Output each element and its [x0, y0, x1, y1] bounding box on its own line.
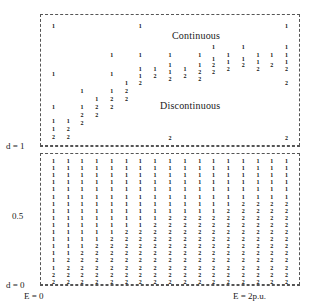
data-marker: 1: [211, 186, 216, 192]
data-marker: 1: [197, 194, 202, 200]
data-marker: 1: [211, 172, 216, 178]
data-marker: 2: [153, 243, 158, 249]
data-marker: 2: [256, 265, 261, 271]
data-marker: 1: [138, 194, 143, 200]
data-marker: 2: [124, 279, 129, 285]
d0-gridline: [40, 285, 300, 286]
data-marker: 1: [94, 96, 99, 102]
data-marker: 2: [211, 279, 216, 285]
data-marker: 1: [51, 194, 56, 200]
data-marker: 2: [168, 229, 173, 235]
data-marker: 2: [241, 236, 246, 242]
data-marker: 1: [168, 179, 173, 185]
data-marker: 1: [66, 250, 71, 256]
data-marker: 1: [211, 194, 216, 200]
data-marker: 2: [124, 236, 129, 242]
data-marker: 2: [124, 243, 129, 249]
data-marker: 1: [124, 222, 129, 228]
data-marker: 1: [284, 23, 289, 29]
data-marker: 2: [284, 215, 289, 221]
data-marker: 1: [168, 201, 173, 207]
x-axis-label-left: E = 0: [24, 291, 44, 301]
data-marker: 2: [153, 265, 158, 271]
data-marker: 1: [109, 222, 114, 228]
data-marker: 1: [51, 165, 56, 171]
data-marker: 1: [79, 104, 84, 110]
data-marker: 1: [197, 172, 202, 178]
data-marker: 2: [79, 272, 84, 278]
data-marker: 2: [284, 272, 289, 278]
data-marker: 1: [79, 194, 84, 200]
data-marker: 1: [269, 52, 274, 58]
data-marker: 2: [66, 279, 71, 285]
data-marker: 1: [226, 186, 231, 192]
data-marker: 2: [226, 279, 231, 285]
data-marker: 1: [256, 172, 261, 178]
data-marker: 1: [256, 179, 261, 185]
data-marker: 1: [284, 165, 289, 171]
data-marker: 2: [241, 201, 246, 207]
data-marker: 1: [138, 172, 143, 178]
data-marker: 2: [153, 73, 158, 79]
region-label-continuous: Continuous: [172, 30, 220, 41]
data-marker: 2: [256, 201, 261, 207]
data-marker: 1: [182, 165, 187, 171]
data-marker: 2: [109, 272, 114, 278]
data-marker: 1: [226, 158, 231, 164]
data-marker: 2: [269, 229, 274, 235]
data-marker: 2: [284, 279, 289, 285]
data-marker: 1: [51, 222, 56, 228]
data-marker: 2: [109, 243, 114, 249]
data-marker: 1: [182, 186, 187, 192]
data-marker: 1: [94, 179, 99, 185]
data-marker: 1: [109, 186, 114, 192]
data-marker: 2: [94, 104, 99, 110]
data-marker: 2: [182, 257, 187, 263]
data-marker: 2: [284, 201, 289, 207]
data-marker: 2: [66, 272, 71, 278]
data-marker: 1: [284, 179, 289, 185]
data-marker: 1: [284, 52, 289, 58]
data-marker: 2: [226, 243, 231, 249]
data-marker: 1: [153, 201, 158, 207]
data-marker: 2: [79, 265, 84, 271]
data-marker: 1: [109, 194, 114, 200]
d1-gridline: [40, 146, 300, 147]
data-marker: 2: [226, 257, 231, 263]
data-marker: 2: [182, 265, 187, 271]
data-marker: 1: [226, 194, 231, 200]
data-marker: 1: [197, 165, 202, 171]
data-marker: 2: [197, 265, 202, 271]
data-marker: 1: [124, 158, 129, 164]
data-marker: 1: [51, 71, 56, 77]
data-marker: 1: [256, 52, 261, 58]
data-marker: 1: [153, 186, 158, 192]
data-marker: 2: [124, 96, 129, 102]
data-marker: 1: [51, 257, 56, 263]
data-marker: 1: [138, 73, 143, 79]
data-marker: 1: [124, 215, 129, 221]
data-marker: 2: [94, 265, 99, 271]
data-marker: 1: [241, 186, 246, 192]
data-marker: 2: [241, 208, 246, 214]
data-marker: 2: [226, 66, 231, 72]
data-marker: 2: [241, 265, 246, 271]
data-marker: 1: [226, 59, 231, 65]
data-marker: 1: [168, 186, 173, 192]
data-marker: 1: [94, 201, 99, 207]
data-marker: 1: [79, 158, 84, 164]
data-marker: 1: [109, 229, 114, 235]
data-marker: 1: [269, 172, 274, 178]
data-marker: 1: [94, 229, 99, 235]
data-marker: 1: [79, 208, 84, 214]
data-marker: 1: [109, 208, 114, 214]
data-marker: 1: [182, 201, 187, 207]
data-marker: 1: [51, 229, 56, 235]
data-marker: 1: [109, 88, 114, 94]
data-marker: 2: [182, 279, 187, 285]
data-marker: 2: [211, 236, 216, 242]
data-marker: 2: [66, 257, 71, 263]
data-marker: 2: [138, 229, 143, 235]
data-marker: 2: [109, 257, 114, 263]
data-marker: 1: [79, 236, 84, 242]
